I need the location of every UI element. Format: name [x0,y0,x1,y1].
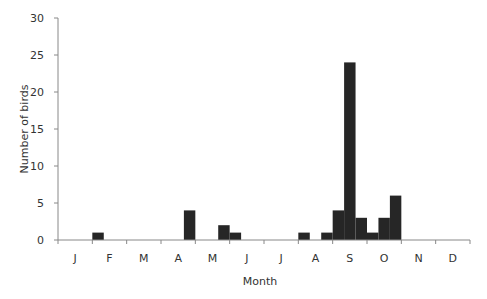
bar-Oct-1 [367,233,378,240]
y-tick-label: 25 [30,49,44,62]
x-tick-label: S [346,252,353,265]
x-tick-label: N [414,252,422,265]
y-axis: 051015202530 [30,12,58,247]
y-tick-label: 5 [37,197,44,210]
bar-Apr-3 [184,210,195,240]
x-tick-label: J [73,252,77,265]
x-tick-label: F [106,252,112,265]
x-tick-label: A [312,252,320,265]
bar-Aug-3 [321,233,332,240]
bars-group [92,62,401,240]
bar-May-3 [218,225,229,240]
x-tick-label: M [208,252,218,265]
bar-Feb-1 [92,233,103,240]
y-tick-label: 30 [30,12,44,25]
y-tick-label: 15 [30,123,44,136]
x-tick-label: O [380,252,389,265]
x-tick-label: M [139,252,149,265]
bar-Oct-3 [390,196,401,240]
x-axis: JFMAMJJASOND [58,240,470,265]
bar-Jun-1 [230,233,241,240]
x-tick-label: A [174,252,182,265]
x-tick-label: J [279,252,283,265]
y-tick-label: 20 [30,86,44,99]
y-axis-title: Number of birds [18,84,31,173]
x-axis-title: Month [243,275,278,288]
bar-Sep-1 [333,210,344,240]
y-tick-label: 10 [30,160,44,173]
y-tick-label: 0 [37,234,44,247]
bar-Sep-3 [356,218,367,240]
bar-Aug-1 [298,233,309,240]
x-tick-label: D [449,252,457,265]
bar-Oct-2 [378,218,389,240]
x-tick-label: J [244,252,248,265]
bar-Sep-2 [344,62,355,240]
bird-count-chart: 051015202530 JFMAMJJASOND Month Number o… [0,0,487,299]
